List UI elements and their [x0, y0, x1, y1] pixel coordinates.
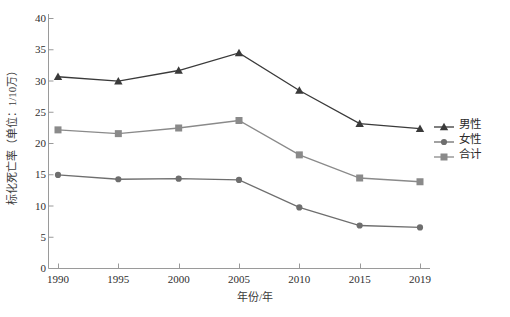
legend-marker-icon [433, 119, 455, 131]
data-point-marker [441, 153, 448, 160]
data-point-marker [355, 119, 363, 126]
x-axis-tick-label: 2015 [349, 274, 371, 285]
y-axis-tick-labels: 0510152025303540 [12, 14, 46, 272]
series-line [58, 121, 420, 182]
axis-tick-marks [49, 19, 421, 269]
y-axis-tick-label: 5 [20, 231, 46, 242]
data-point-marker [295, 86, 303, 93]
data-point-marker [296, 204, 302, 210]
chart-legend: 男性女性合计 [433, 117, 507, 162]
data-point-marker [296, 151, 303, 158]
data-point-marker [235, 49, 243, 56]
data-point-marker [417, 178, 424, 185]
data-point-marker [55, 172, 61, 178]
legend-label: 男性 [459, 119, 481, 131]
y-axis-tick-label: 20 [20, 138, 46, 149]
legend-label: 女性 [459, 134, 481, 146]
data-point-marker [54, 73, 62, 80]
x-axis-tick-label: 2010 [288, 274, 310, 285]
data-point-marker [55, 126, 62, 133]
legend-marker-icon [433, 134, 455, 146]
legend-item-女性[interactable]: 女性 [433, 132, 507, 147]
data-point-marker [115, 176, 121, 182]
x-axis-title: 年份/年 [0, 288, 510, 304]
y-axis-tick-label: 30 [20, 75, 46, 86]
legend-marker-icon [433, 149, 455, 161]
series-合计 [55, 117, 424, 185]
x-axis-tick-label: 1990 [47, 274, 69, 285]
data-point-marker [236, 177, 242, 183]
y-axis-tick-label: 40 [20, 13, 46, 24]
data-point-marker [357, 222, 363, 228]
y-axis-tick-label: 10 [20, 200, 46, 211]
x-axis-tick-label: 2005 [228, 274, 250, 285]
x-axis-tick-label: 2000 [168, 274, 190, 285]
y-axis-tick-label: 15 [20, 169, 46, 180]
data-point-marker [175, 125, 182, 132]
data-point-marker [115, 130, 122, 137]
data-point-marker [176, 176, 182, 182]
line-chart: 标化死亡率（单位：1/10万） 0510152025303540 1990199… [0, 0, 510, 317]
data-point-marker [236, 117, 243, 124]
x-axis-title-text: 年份/年 [237, 288, 273, 304]
y-axis-tick-label: 25 [20, 106, 46, 117]
series-女性 [55, 172, 423, 231]
data-point-marker [356, 175, 363, 182]
x-axis-tick-label: 1995 [107, 274, 129, 285]
legend-item-合计[interactable]: 合计 [433, 147, 507, 162]
plot-area [48, 14, 430, 272]
series-layer [54, 49, 424, 231]
x-axis-tick-label: 2019 [409, 274, 431, 285]
legend-item-男性[interactable]: 男性 [433, 117, 507, 132]
data-point-marker [417, 224, 423, 230]
y-axis-tick-label: 35 [20, 44, 46, 55]
legend-label: 合计 [459, 149, 481, 161]
y-axis-tick-label: 0 [20, 263, 46, 274]
plot-svg [48, 14, 430, 272]
data-point-marker [441, 138, 447, 144]
